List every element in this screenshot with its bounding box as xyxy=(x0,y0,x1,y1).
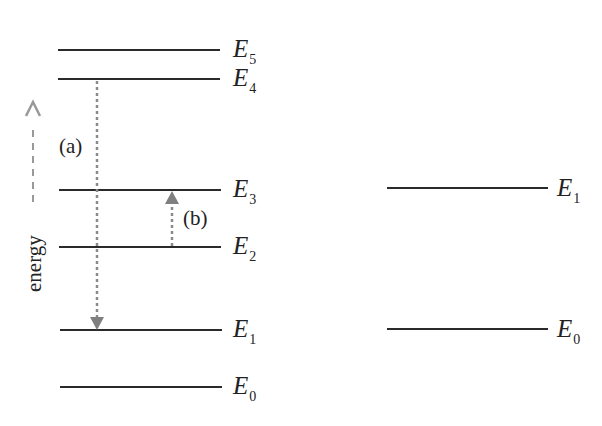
label-e1: E1 xyxy=(233,316,256,347)
right-label-e1: E1 xyxy=(557,175,580,206)
energy-axis-label: energy xyxy=(22,235,47,292)
arrow-down-icon xyxy=(90,317,104,330)
right-label-e0: E0 xyxy=(557,316,580,347)
transition-b-label: (b) xyxy=(183,208,208,229)
label-e5: E5 xyxy=(233,36,256,67)
label-e2: E2 xyxy=(233,233,256,264)
label-e4: E4 xyxy=(233,65,256,96)
label-e0: E0 xyxy=(233,373,256,404)
label-e3: E3 xyxy=(233,176,256,207)
arrow-up-icon xyxy=(165,191,179,204)
energy-level-diagram xyxy=(0,0,602,426)
right-levels xyxy=(387,188,548,329)
energy-axis-chevron-icon xyxy=(26,102,40,116)
transition-a-label: (a) xyxy=(59,136,82,157)
